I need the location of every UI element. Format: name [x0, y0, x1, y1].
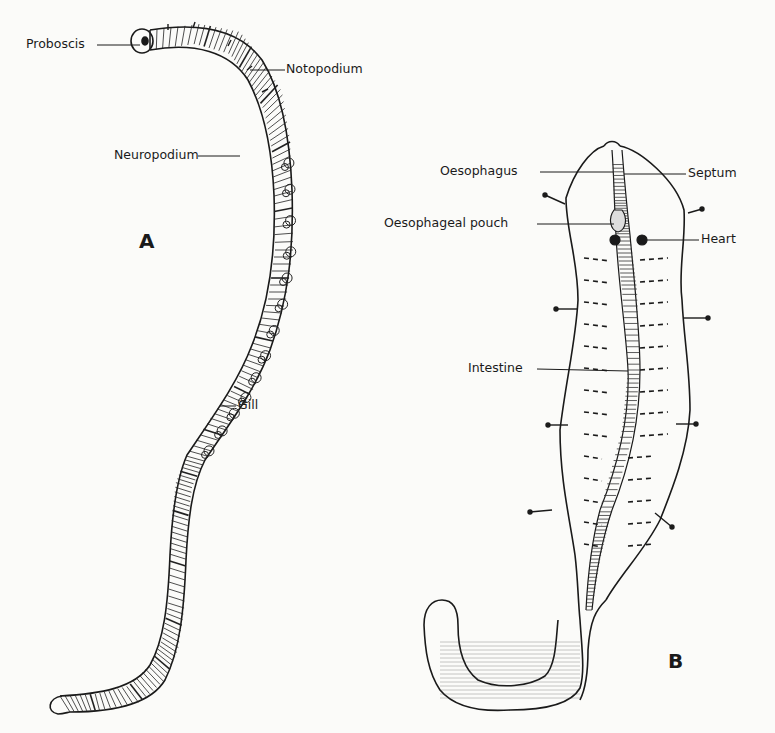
septa: [584, 258, 668, 547]
label-oesophageal-pouch: Oesophageal pouch: [384, 217, 508, 230]
panel-letter-b: B: [668, 651, 683, 671]
panel-letter-a: A: [139, 231, 154, 251]
label-gill: Gill: [238, 399, 258, 412]
label-septum: Septum: [688, 167, 737, 180]
worm-a-body: [50, 27, 292, 714]
lugworm-anatomy-figure: Proboscis Notopodium Neuropodium Gill A …: [0, 0, 775, 733]
illustration-canvas: [0, 0, 775, 733]
label-oesophagus: Oesophagus: [440, 165, 518, 178]
notopodium-bristles: [168, 22, 268, 92]
label-heart: Heart: [701, 233, 736, 246]
intestine-segments: [586, 165, 640, 610]
label-intestine: Intestine: [468, 362, 523, 375]
label-proboscis: Proboscis: [26, 38, 85, 51]
heart-and-pouch: [610, 210, 647, 245]
worm-a-segment-rings: [60, 24, 293, 712]
label-neuropodium: Neuropodium: [114, 149, 199, 162]
label-notopodium: Notopodium: [286, 63, 363, 76]
tail-ring-shading: [440, 640, 580, 700]
